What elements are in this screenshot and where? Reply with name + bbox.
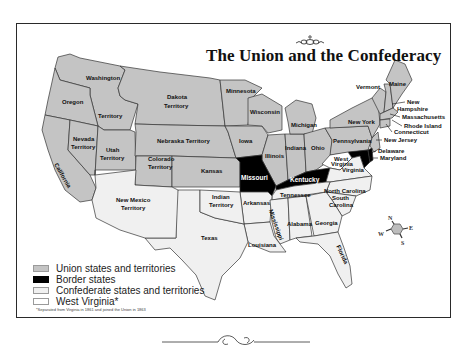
- label-ohio: Ohio: [311, 145, 325, 151]
- legend: Union states and territories Border stat…: [33, 263, 204, 307]
- label-maine: Maine: [389, 81, 407, 87]
- legend-swatch-border: [33, 276, 49, 283]
- label-arkansas: Arkansas: [243, 200, 271, 206]
- label-washington: Washington: [86, 75, 120, 81]
- compass-rose-icon: N E S W: [378, 215, 413, 246]
- label-washington-territory: Territory: [98, 113, 123, 119]
- label-south-carolina-2: Carolina: [329, 202, 354, 208]
- label-nevada-territory: Territory: [71, 144, 96, 150]
- label-utah: Utah: [106, 147, 120, 153]
- label-dakota-territory: Territory: [164, 103, 189, 109]
- title-ornament-icon: [296, 36, 324, 45]
- region-connecticut: [380, 119, 390, 128]
- legend-swatch-west-virginia: [33, 298, 49, 305]
- label-connecticut: Connecticut: [394, 129, 429, 135]
- label-georgia: Georgia: [315, 220, 338, 226]
- legend-label: Confederate states and territories: [56, 285, 204, 296]
- label-delaware: Delaware: [378, 148, 405, 154]
- legend-item-confederate: Confederate states and territories: [33, 285, 204, 296]
- label-iowa: Iowa: [239, 138, 253, 144]
- label-missouri: Missouri: [241, 174, 268, 181]
- label-virginia: Virginia: [342, 167, 365, 173]
- compass-w: W: [378, 231, 384, 237]
- label-vermont: Vermont: [356, 84, 380, 90]
- legend-item-union: Union states and territories: [33, 263, 204, 274]
- label-massachusetts: Massachusetts: [402, 114, 446, 120]
- legend-swatch-union: [33, 265, 49, 272]
- legend-label: West Virginia*: [56, 296, 118, 307]
- compass-s: S: [401, 240, 405, 246]
- label-dakota: Dakota: [167, 94, 188, 100]
- label-kentucky: Kentucky: [290, 176, 320, 184]
- label-alabama: Alabama: [287, 221, 313, 227]
- map-title: The Union and the Confederacy: [206, 46, 441, 66]
- label-new-york: New York: [348, 119, 375, 125]
- label-indian-territory: Territory: [209, 202, 234, 208]
- label-pennsylvania: Pennsylvania: [333, 138, 372, 144]
- label-minnesota: Minnesota: [226, 88, 256, 94]
- label-indian: Indian: [212, 194, 230, 200]
- label-colorado-territory: Territory: [148, 164, 173, 170]
- legend-swatch-confederate: [33, 287, 49, 294]
- legend-label: Union states and territories: [56, 263, 176, 274]
- label-north-carolina: North Carolina: [324, 188, 366, 194]
- legend-footnote: *Separated from Virginia in 1861 and joi…: [36, 307, 146, 312]
- label-new-hampshire-2: Hampshire: [397, 106, 429, 112]
- compass-e: E: [409, 225, 413, 231]
- legend-item-west-virginia: West Virginia*: [33, 296, 204, 307]
- legend-label: Border states: [56, 274, 115, 285]
- label-kansas: Kansas: [201, 168, 223, 174]
- label-new-jersey: New Jersey: [384, 137, 418, 143]
- region-michigan: [285, 100, 316, 134]
- label-south-carolina: South: [332, 195, 349, 201]
- label-indiana: Indiana: [285, 145, 307, 151]
- label-wisconsin: Wisconsin: [250, 109, 280, 115]
- label-tennessee: Tennessee: [280, 192, 311, 198]
- label-new-mexico: New Mexico: [116, 197, 151, 203]
- compass-n: N: [388, 215, 393, 221]
- label-nevada: Nevada: [73, 136, 95, 142]
- bottom-flourish-icon: [162, 336, 310, 345]
- label-oregon: Oregon: [62, 99, 84, 105]
- label-new-mexico-territory: Territory: [121, 205, 146, 211]
- label-maryland: Maryland: [380, 155, 407, 161]
- label-colorado: Colorado: [148, 156, 175, 162]
- label-texas: Texas: [201, 235, 218, 241]
- label-nebraska: Nebraska Territory: [157, 138, 211, 144]
- legend-item-border: Border states: [33, 274, 204, 285]
- region-arkansas: [240, 192, 272, 224]
- label-illinois: Illinois: [265, 153, 285, 159]
- label-utah-territory: Territory: [100, 155, 125, 161]
- label-louisiana: Louisiana: [248, 242, 277, 248]
- label-new-hampshire: New: [407, 99, 420, 105]
- label-michigan: Michigan: [291, 122, 317, 128]
